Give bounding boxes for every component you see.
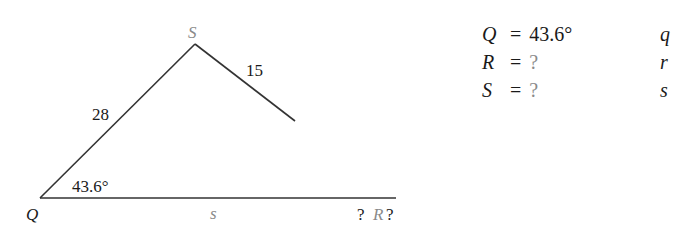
side-qr-label: s (210, 205, 217, 222)
vertex-s-label: S (188, 24, 197, 41)
side-qs (40, 44, 195, 198)
angle-q-label: 43.6° (72, 178, 109, 195)
side-label-r: r (660, 52, 670, 80)
given-angles: Q = 43.6° R = ? S = ? (482, 24, 572, 108)
angle-value: ? (529, 52, 538, 72)
angle-name: Q (482, 24, 504, 44)
angle-name: R (482, 52, 504, 72)
equals-sign: = (510, 24, 521, 44)
given-row-q: Q = 43.6° (482, 24, 572, 52)
triangle-diagram: S 15 28 43.6° Q s ? R ? (0, 0, 430, 246)
side-sr (195, 44, 295, 121)
angle-name: S (482, 80, 504, 100)
side-label-s: s (660, 80, 670, 108)
ambiguous-mark-right: ? (386, 206, 394, 223)
given-row-r: R = ? (482, 52, 572, 80)
ambiguous-mark-left: ? (357, 206, 365, 223)
side-qs-length: 28 (92, 106, 109, 123)
side-labels-column: q r s (660, 24, 670, 108)
equals-sign: = (510, 80, 521, 100)
vertex-r-label: R (373, 206, 383, 223)
side-label-q: q (660, 24, 670, 52)
angle-value: ? (529, 80, 538, 100)
angle-value: 43.6° (529, 24, 572, 44)
vertex-q-label: Q (26, 206, 38, 223)
equals-sign: = (510, 52, 521, 72)
given-row-s: S = ? (482, 80, 572, 108)
side-sr-length: 15 (246, 62, 263, 79)
